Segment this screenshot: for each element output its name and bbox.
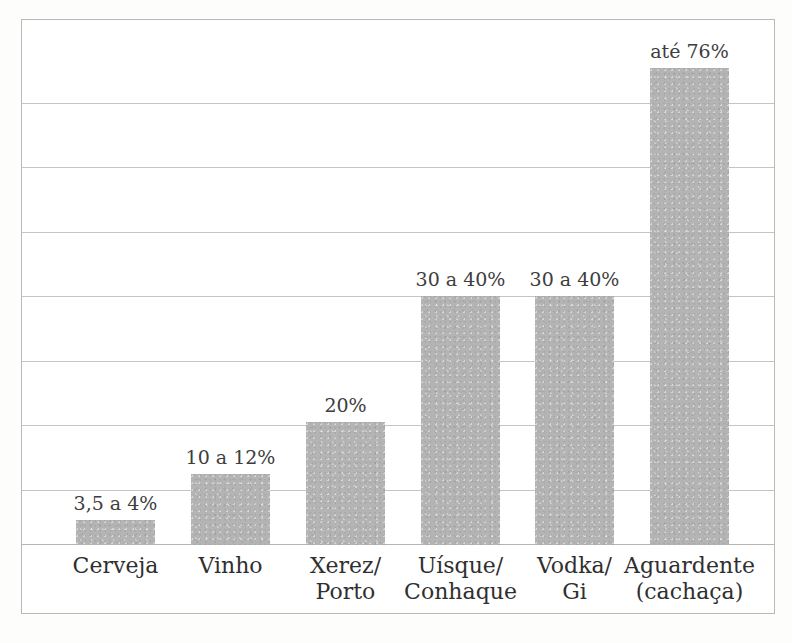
x-label-cerveja: Cerveja [56,553,175,579]
x-label-cerveja-line1: Cerveja [73,553,159,578]
x-label-xerez-porto-line2: Porto [286,579,405,605]
x-axis-labels: Cerveja Vinho Xerez/ Porto Uísque/ Conha… [22,545,774,614]
x-label-vodka-gi-line1: Vodka/ [537,553,612,578]
bar-label-xerez-porto: 20% [274,396,417,415]
bar-group-xerez-porto: 20% [306,422,385,545]
bar-vinho[interactable] [191,474,270,545]
x-label-vinho: Vinho [171,553,290,579]
chart-page: 3,5 a 4% 10 a 12% 20% 30 a 40% [0,0,792,643]
bar-label-cerveja: 3,5 a 4% [44,494,187,513]
bar-label-vinho: 10 a 12% [159,448,302,467]
bar-label-aguardente-cachaca: até 76% [618,42,761,61]
x-label-uisque-conhaque-line2: Conhaque [396,579,525,605]
x-label-vodka-gi-line2: Gi [515,579,634,605]
x-label-vodka-gi: Vodka/ Gi [515,553,634,605]
bars-layer: 3,5 a 4% 10 a 12% 20% 30 a 40% [22,20,774,545]
bar-group-aguardente-cachaca: até 76% [650,68,729,545]
x-label-uisque-conhaque-line1: Uísque/ [418,553,504,578]
bar-uisque-conhaque[interactable] [421,296,500,545]
bar-group-vodka-gi: 30 a 40% [535,296,614,545]
bar-cerveja[interactable] [76,520,155,545]
x-label-xerez-porto: Xerez/ Porto [286,553,405,605]
bar-label-vodka-gi: 30 a 40% [503,270,646,289]
bar-group-uisque-conhaque: 30 a 40% [421,296,500,545]
x-label-aguardente-cachaca: Aguardente (cachaça) [622,553,757,605]
bar-xerez-porto[interactable] [306,422,385,545]
chart-frame: 3,5 a 4% 10 a 12% 20% 30 a 40% [21,19,775,614]
x-label-aguardente-cachaca-line2: (cachaça) [622,579,757,605]
x-label-vinho-line1: Vinho [198,553,262,578]
x-label-aguardente-cachaca-line1: Aguardente [624,553,755,578]
plot-area: 3,5 a 4% 10 a 12% 20% 30 a 40% [22,20,774,545]
x-label-xerez-porto-line1: Xerez/ [310,553,381,578]
bar-group-vinho: 10 a 12% [191,474,270,545]
x-label-uisque-conhaque: Uísque/ Conhaque [396,553,525,605]
bar-aguardente-cachaca[interactable] [650,68,729,545]
bar-vodka-gi[interactable] [535,296,614,545]
bar-group-cerveja: 3,5 a 4% [76,520,155,545]
